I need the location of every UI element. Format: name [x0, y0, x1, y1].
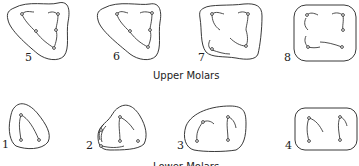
cusp-point [342, 29, 345, 32]
cusp-point [100, 145, 103, 148]
cusp-point [196, 140, 199, 143]
cusp-point [20, 114, 23, 117]
cusp-point [35, 30, 38, 33]
tooth-outline [294, 5, 356, 61]
upper-molar-8: 8 [284, 5, 356, 64]
cusp-point [202, 121, 205, 124]
cusp-point [21, 13, 24, 16]
cusp-point [119, 116, 122, 119]
cusp-point [119, 140, 122, 143]
cusp-ridge [209, 12, 248, 54]
cusp-point [307, 46, 310, 49]
tooth-number: 3 [177, 139, 184, 152]
cusp-point [100, 129, 103, 132]
upper-molar-6: 6 [97, 4, 160, 63]
tooth-outline [7, 3, 69, 60]
tooth-number: 1 [2, 138, 9, 151]
molar-diagram: 5 6 7 8 Upper Molars [0, 0, 359, 166]
cusp-point [149, 29, 152, 32]
cusp-ridge [22, 12, 58, 49]
cusp-point [211, 48, 214, 51]
lower-molar-1: 1 [2, 104, 49, 151]
cusp-ridge [99, 124, 124, 148]
cusp-ridge [119, 117, 134, 141]
cusp-point [20, 139, 23, 142]
upper-molar-7: 7 [198, 4, 262, 64]
lower-molars-caption: Lower Molars [153, 161, 219, 166]
tooth-number: 4 [285, 139, 292, 152]
cusp-point [247, 13, 250, 16]
cusp-point [137, 140, 140, 143]
cusp-point [308, 140, 311, 143]
cusp-point [147, 46, 150, 49]
cusp-ridge [307, 117, 347, 141]
cusp-point [342, 14, 345, 17]
cusp-point [308, 117, 311, 120]
tooth-number: 2 [86, 139, 93, 152]
tooth-outline [295, 108, 357, 150]
lower-molar-4: 4 [285, 108, 357, 152]
cusp-point [38, 139, 41, 142]
cusp-point [57, 13, 60, 16]
lower-molar-3: 3 [177, 106, 246, 152]
cusp-point [53, 47, 56, 50]
tooth-outline [98, 105, 146, 150]
cusp-point [151, 12, 154, 15]
tooth-number: 6 [113, 50, 120, 63]
cusp-ridge [117, 12, 152, 47]
cusp-point [129, 30, 132, 33]
cusp-point [227, 116, 230, 119]
tooth-outline [200, 4, 262, 59]
tooth-number: 5 [25, 51, 32, 64]
lower-molar-2: 2 [86, 105, 146, 152]
cusp-point [341, 46, 344, 49]
upper-molar-5: 5 [7, 3, 69, 64]
cusp-point [55, 29, 58, 32]
cusp-ridge [19, 115, 39, 140]
cusp-point [339, 139, 342, 142]
cusp-point [306, 14, 309, 17]
tooth-number: 7 [198, 51, 205, 64]
upper-molars-caption: Upper Molars [153, 70, 219, 81]
cusp-point [211, 13, 214, 16]
tooth-number: 8 [284, 51, 291, 64]
tooth-outline [9, 104, 49, 149]
cusp-ridge [305, 13, 344, 48]
cusp-point [227, 139, 230, 142]
cusp-point [339, 116, 342, 119]
cusp-point [245, 45, 248, 48]
cusp-point [116, 13, 119, 16]
tooth-outline [184, 106, 246, 152]
